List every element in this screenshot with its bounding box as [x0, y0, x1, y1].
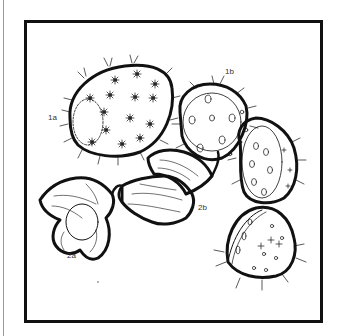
cape-gooseberries: [40, 150, 219, 259]
label-2a: 2a: [67, 251, 76, 260]
horned-melon-whole: [60, 55, 180, 165]
ink-speck: [97, 281, 99, 283]
label-1b: 1b: [225, 67, 234, 76]
horned-melon-slices: [172, 76, 306, 290]
label-1a: 1a: [48, 113, 57, 122]
label-2b: 2b: [198, 203, 207, 212]
fruit-illustration: [0, 0, 339, 336]
